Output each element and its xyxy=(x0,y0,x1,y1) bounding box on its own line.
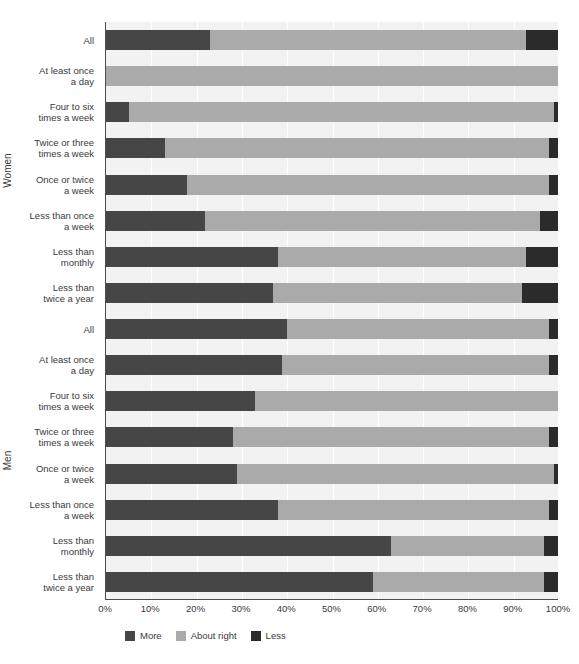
bar-row[interactable] xyxy=(106,528,558,564)
y-axis-label: Twice or three times a week xyxy=(0,137,94,159)
bar-segment-less[interactable] xyxy=(549,319,558,339)
bar-track xyxy=(106,247,558,267)
bar-segment-about-right[interactable] xyxy=(187,175,549,195)
bar-track xyxy=(106,355,558,375)
x-axis-tick-label: 40% xyxy=(277,603,296,614)
legend-swatch-icon xyxy=(251,631,261,641)
bar-segment-about-right[interactable] xyxy=(287,319,549,339)
bar-row[interactable] xyxy=(106,22,558,58)
bar-row[interactable] xyxy=(106,94,558,130)
bar-segment-about-right[interactable] xyxy=(255,391,558,411)
x-axis-tick-label: 30% xyxy=(231,603,250,614)
bar-segment-less[interactable] xyxy=(549,175,558,195)
y-axis-label: Four to six times a week xyxy=(0,390,94,412)
y-axis-label: All xyxy=(0,35,94,46)
bar-segment-more[interactable] xyxy=(106,30,210,50)
y-axis-label: Four to six times a week xyxy=(0,101,94,123)
bar-segment-more[interactable] xyxy=(106,355,282,375)
bar-segment-more[interactable] xyxy=(106,572,373,592)
bar-segment-about-right[interactable] xyxy=(129,102,554,122)
bar-row[interactable] xyxy=(106,456,558,492)
bar-segment-about-right[interactable] xyxy=(237,464,553,484)
bar-track xyxy=(106,138,558,158)
bar-track xyxy=(106,464,558,484)
bar-segment-less[interactable] xyxy=(544,572,558,592)
bar-segment-about-right[interactable] xyxy=(282,355,549,375)
bar-segment-less[interactable] xyxy=(554,102,559,122)
bar-track xyxy=(106,536,558,556)
y-axis-label: Less than monthly xyxy=(0,535,94,557)
bar-segment-more[interactable] xyxy=(106,500,278,520)
bar-segment-about-right[interactable] xyxy=(373,572,545,592)
plot-area xyxy=(105,22,558,600)
bar-row[interactable] xyxy=(106,167,558,203)
bar-segment-more[interactable] xyxy=(106,175,187,195)
bar-segment-about-right[interactable] xyxy=(233,427,549,447)
chart-legend: MoreAbout rightLess xyxy=(125,630,286,641)
bar-track xyxy=(106,211,558,231)
bar-segment-less[interactable] xyxy=(549,427,558,447)
legend-item[interactable]: About right xyxy=(176,630,237,641)
bar-segment-less[interactable] xyxy=(540,211,558,231)
y-axis-label: Twice or three times a week xyxy=(0,426,94,448)
bar-segment-less[interactable] xyxy=(554,464,559,484)
bar-track xyxy=(106,30,558,50)
bar-segment-more[interactable] xyxy=(106,283,273,303)
bar-track xyxy=(106,66,558,86)
bar-segment-about-right[interactable] xyxy=(205,211,539,231)
bar-track xyxy=(106,500,558,520)
bar-track xyxy=(106,572,558,592)
bar-segment-more[interactable] xyxy=(106,536,391,556)
bar-segment-more[interactable] xyxy=(106,464,237,484)
y-axis-label: Once or twice a week xyxy=(0,174,94,196)
bar-row[interactable] xyxy=(106,275,558,311)
bar-row[interactable] xyxy=(106,130,558,166)
bar-track xyxy=(106,102,558,122)
top-edge-artifact xyxy=(0,0,579,7)
bar-segment-about-right[interactable] xyxy=(165,138,549,158)
bar-row[interactable] xyxy=(106,564,558,600)
bar-segment-less[interactable] xyxy=(549,355,558,375)
legend-label: Less xyxy=(266,630,286,641)
bar-segment-less[interactable] xyxy=(522,283,558,303)
bar-row[interactable] xyxy=(106,383,558,419)
bar-row[interactable] xyxy=(106,419,558,455)
bar-segment-about-right[interactable] xyxy=(278,247,527,267)
bar-row[interactable] xyxy=(106,347,558,383)
bar-segment-more[interactable] xyxy=(106,247,278,267)
bar-row[interactable] xyxy=(106,239,558,275)
bar-segment-about-right[interactable] xyxy=(210,30,526,50)
legend-label: About right xyxy=(191,630,237,641)
bar-row[interactable] xyxy=(106,311,558,347)
y-axis-label: Once or twice a week xyxy=(0,463,94,485)
bar-segment-more[interactable] xyxy=(106,102,129,122)
bar-segment-less[interactable] xyxy=(549,500,558,520)
legend-item[interactable]: More xyxy=(125,630,162,641)
legend-item[interactable]: Less xyxy=(251,630,286,641)
chart-container: AllAt least once a dayFour to six times … xyxy=(0,0,579,664)
bar-segment-more[interactable] xyxy=(106,427,233,447)
bar-segment-about-right[interactable] xyxy=(273,283,522,303)
bar-segment-more[interactable] xyxy=(106,211,205,231)
bar-segment-more[interactable] xyxy=(106,138,165,158)
bar-segment-about-right[interactable] xyxy=(391,536,545,556)
y-axis-label: Less than twice a year xyxy=(0,282,94,304)
y-axis-label: Less than twice a year xyxy=(0,571,94,593)
bar-segment-about-right[interactable] xyxy=(106,66,558,86)
bar-row[interactable] xyxy=(106,492,558,528)
bar-segment-more[interactable] xyxy=(106,319,287,339)
bar-segment-less[interactable] xyxy=(526,247,558,267)
bar-segment-less[interactable] xyxy=(544,536,558,556)
legend-swatch-icon xyxy=(176,631,186,641)
group-title-men: Men xyxy=(2,451,13,470)
bar-segment-more[interactable] xyxy=(106,391,255,411)
x-axis-tick-label: 50% xyxy=(322,603,341,614)
bar-row[interactable] xyxy=(106,203,558,239)
legend-swatch-icon xyxy=(125,631,135,641)
bar-segment-less[interactable] xyxy=(526,30,558,50)
bar-segment-about-right[interactable] xyxy=(278,500,549,520)
bar-row[interactable] xyxy=(106,58,558,94)
y-axis-label: Less than monthly xyxy=(0,246,94,268)
x-axis-tick-label: 70% xyxy=(413,603,432,614)
bar-segment-less[interactable] xyxy=(549,138,558,158)
